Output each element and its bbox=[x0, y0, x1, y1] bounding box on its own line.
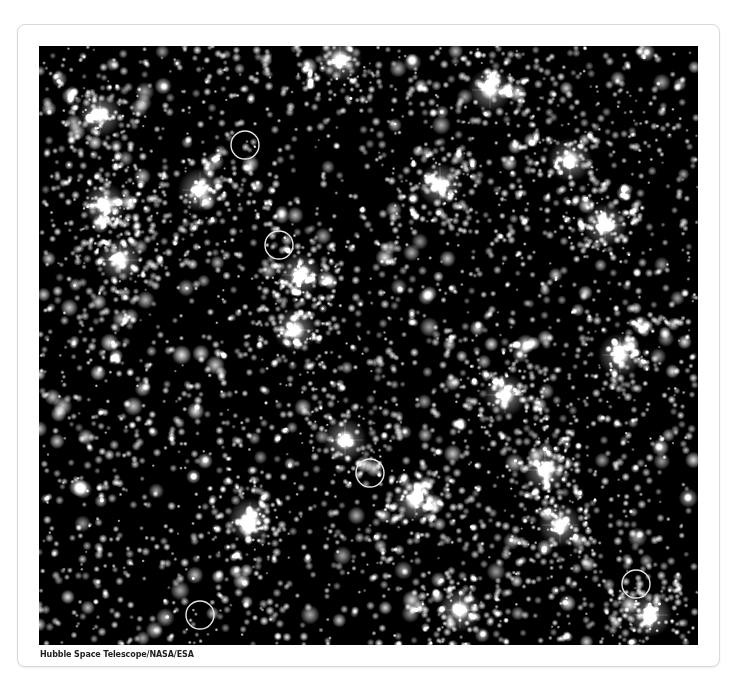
circled-star-3-circle-marker bbox=[356, 459, 384, 487]
circled-star-2-circle-marker bbox=[265, 231, 293, 259]
circled-star-1-circle-marker bbox=[231, 131, 259, 159]
marker-overlay bbox=[39, 46, 698, 645]
image-credit-caption: Hubble Space Telescope/NASA/ESA bbox=[40, 650, 194, 659]
star-field-image bbox=[39, 46, 698, 645]
circled-star-4-circle-marker bbox=[622, 570, 650, 598]
circled-star-5-circle-marker bbox=[186, 601, 214, 629]
